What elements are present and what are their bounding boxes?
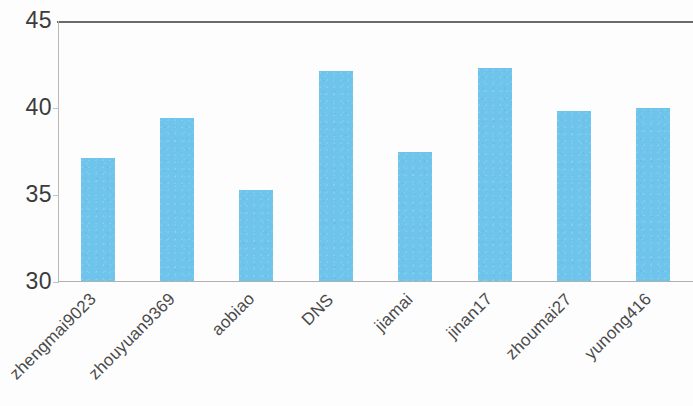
- bar: [239, 190, 273, 281]
- x-tick-label: DNS: [298, 290, 338, 330]
- x-tick-label: jiamai: [371, 290, 417, 336]
- bar: [160, 118, 194, 281]
- bar: [557, 111, 591, 281]
- y-tick-label: 35: [6, 183, 52, 206]
- plot-area: [58, 21, 693, 282]
- y-tick-label: 40: [6, 96, 52, 119]
- bar: [319, 71, 353, 281]
- bar: [81, 158, 115, 281]
- y-tick-label: 30: [6, 270, 52, 293]
- bar: [478, 68, 512, 281]
- x-tick-label: yunong416: [581, 289, 656, 364]
- x-axis: zhengmai9023zhouyuan9369aobiaoDNSjiamaij…: [58, 282, 693, 406]
- bar: [636, 108, 670, 281]
- bar-chart: 30354045 zhengmai9023zhouyuan9369aobiaoD…: [0, 0, 693, 406]
- x-tick-label: jinan17: [443, 289, 497, 343]
- y-tick-label: 45: [6, 9, 52, 32]
- x-tick-label: aobiao: [208, 289, 259, 340]
- bar-series: [58, 21, 693, 282]
- x-tick-label: zhoumai27: [502, 289, 576, 363]
- bar: [398, 152, 432, 282]
